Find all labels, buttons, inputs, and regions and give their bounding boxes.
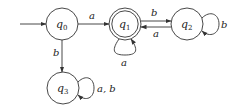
edge-label-q2-self: b bbox=[221, 19, 227, 30]
transition-q1-q2: b bbox=[141, 7, 171, 21]
edge-label-q0-q1: a bbox=[89, 10, 95, 21]
transition-q0-q1: a bbox=[78, 10, 109, 24]
transition-q2-self: b bbox=[202, 14, 227, 35]
edge-label-q2-q1: a bbox=[153, 28, 159, 39]
edge-label-q1-self: a bbox=[121, 57, 127, 68]
state-q2: q2 bbox=[171, 8, 203, 40]
transition-q3-self: a, b bbox=[78, 78, 116, 99]
edge-label-q0-q3: b bbox=[53, 47, 59, 58]
transition-q1-self: a bbox=[114, 39, 135, 68]
state-q1-accepting: q1 bbox=[109, 8, 141, 40]
automaton-diagram: a b a b a b a, b bbox=[0, 0, 236, 110]
state-q3: q3 bbox=[47, 72, 79, 104]
edge-label-q3-self: a, b bbox=[97, 83, 116, 94]
state-q0: q0 bbox=[46, 8, 78, 40]
edge-label-q1-q2: b bbox=[151, 7, 157, 18]
transition-q2-q1: a bbox=[141, 27, 171, 39]
transition-q0-q3: b bbox=[53, 40, 62, 72]
